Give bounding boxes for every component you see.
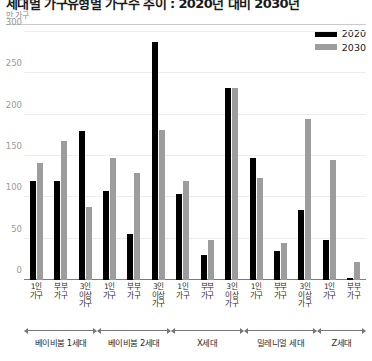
y-tick-label: 0 (2, 265, 22, 275)
y-tick-label: 150 (2, 141, 22, 151)
x-label-group-0: 1인 가구부부 가구3인 이상 가구 (24, 283, 97, 317)
x-tick-label: 1인 가구 (171, 283, 195, 317)
bar-2030 (183, 181, 189, 280)
bar-2020 (225, 88, 231, 280)
bar-pair (122, 32, 146, 280)
bar-pair (24, 32, 48, 280)
generation-bracket-0: 베이비붐 1세대 (24, 326, 97, 358)
bar-2020 (347, 278, 353, 280)
generation-label: 베이비붐 2세대 (97, 336, 170, 348)
bar-pair (48, 32, 72, 280)
x-tick-label: 부부 가구 (122, 283, 146, 317)
bar-2030 (354, 262, 360, 280)
generation-label: 베이비붐 1세대 (24, 336, 97, 348)
x-tick-label: 1인 가구 (97, 283, 121, 317)
bar-2030 (257, 178, 263, 281)
generation-brackets: 베이비붐 1세대베이비붐 2세대X세대밀레니얼 세대Z세대 (24, 326, 366, 358)
generation-label: 밀레니얼 세대 (244, 336, 317, 348)
x-label-group-1: 1인 가구부부 가구3인 이상 가구 (97, 283, 170, 317)
bar-2030 (208, 240, 214, 280)
x-tick-label: 부부 가구 (195, 283, 219, 317)
x-axis-labels: 1인 가구부부 가구3인 이상 가구1인 가구부부 가구3인 이상 가구1인 가… (24, 283, 366, 317)
bracket-arrow-line (27, 330, 94, 331)
generation-label: X세대 (171, 336, 244, 348)
bar-2030 (37, 163, 43, 280)
generation-bracket-2: X세대 (171, 326, 244, 358)
bar-2020 (176, 194, 182, 280)
bar-2020 (127, 234, 133, 280)
x-tick-label: 1인 가구 (24, 283, 48, 317)
generation-label: Z세대 (317, 336, 366, 348)
x-tick-label: 3인 이상 가구 (293, 283, 317, 317)
generation-bracket-4: Z세대 (317, 326, 366, 358)
bracket-arrow-line (174, 330, 241, 331)
x-label-group-2: 1인 가구부부 가구3인 이상 가구 (171, 283, 244, 317)
y-tick-label: 50 (2, 224, 22, 234)
bar-pair (195, 32, 219, 280)
bar-2020 (298, 210, 304, 280)
bar-2020 (323, 240, 329, 280)
y-tick-label: 250 (2, 58, 22, 68)
bar-group-0 (24, 32, 97, 280)
bar-pair (97, 32, 121, 280)
bar-2030 (305, 119, 311, 280)
bar-2020 (201, 255, 207, 280)
bracket-arrow-line (100, 330, 167, 331)
bar-2030 (61, 141, 67, 280)
bar-2030 (134, 173, 140, 280)
page-title: 세대별 가구유형별 가구수 추이 : 2020년 대비 2030년 (6, 0, 299, 12)
x-tick-label: 부부 가구 (48, 283, 72, 317)
bar-2030 (159, 130, 165, 280)
bar-pair (171, 32, 195, 280)
bar-group-1 (97, 32, 170, 280)
bar-2020 (54, 181, 60, 280)
bar-2020 (274, 251, 280, 280)
y-tick-label: 300 (2, 17, 22, 27)
x-tick-label: 부부 가구 (268, 283, 292, 317)
x-tick-label: 부부 가구 (342, 283, 366, 317)
generation-bracket-3: 밀레니얼 세대 (244, 326, 317, 358)
bar-pair (244, 32, 268, 280)
bar-pair (219, 32, 243, 280)
bar-pair (268, 32, 292, 280)
bracket-arrow-line (320, 330, 363, 331)
bar-2030 (110, 158, 116, 280)
bar-group-4 (317, 32, 366, 280)
bar-2030 (232, 88, 238, 280)
y-tick-label: 200 (2, 100, 22, 110)
bar-2020 (250, 158, 256, 280)
x-label-group-4: 1인 가구부부 가구 (317, 283, 366, 317)
bracket-arrow-line (247, 330, 314, 331)
bar-pair (342, 32, 366, 280)
bar-2030 (281, 243, 287, 280)
header-divider (6, 24, 366, 25)
bar-2020 (103, 191, 109, 280)
chart-plot-area: 050100150200250300 (24, 32, 366, 280)
bar-2020 (30, 181, 36, 280)
x-tick-label: 3인 이상 가구 (73, 283, 97, 317)
generation-bracket-1: 베이비붐 2세대 (97, 326, 170, 358)
bar-groups (24, 32, 366, 280)
x-tick-label: 1인 가구 (244, 283, 268, 317)
bar-2020 (79, 131, 85, 280)
bar-pair (73, 32, 97, 280)
bar-2020 (152, 42, 158, 280)
y-tick-label: 100 (2, 182, 22, 192)
x-tick-label: 3인 이상 가구 (219, 283, 243, 317)
bar-group-2 (171, 32, 244, 280)
x-label-group-3: 1인 가구부부 가구3인 이상 가구 (244, 283, 317, 317)
bar-pair (293, 32, 317, 280)
bar-2030 (86, 207, 92, 280)
bar-pair (317, 32, 341, 280)
bar-group-3 (244, 32, 317, 280)
x-tick-label: 1인 가구 (317, 283, 341, 317)
x-tick-label: 3인 이상 가구 (146, 283, 170, 317)
bar-pair (146, 32, 170, 280)
bar-2030 (330, 160, 336, 280)
